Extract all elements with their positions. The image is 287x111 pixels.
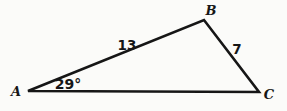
vertex-label-A: A xyxy=(9,84,21,99)
side-label-BC: 7 xyxy=(232,41,241,57)
triangle-diagram-svg: A B C 13 7 29° xyxy=(0,0,287,111)
vertex-label-B: B xyxy=(205,3,217,18)
angle-label-A: 29° xyxy=(55,76,81,92)
vertex-label-C: C xyxy=(264,87,275,102)
triangle-figure: A B C 13 7 29° xyxy=(0,0,287,111)
side-label-AB: 13 xyxy=(118,37,137,53)
